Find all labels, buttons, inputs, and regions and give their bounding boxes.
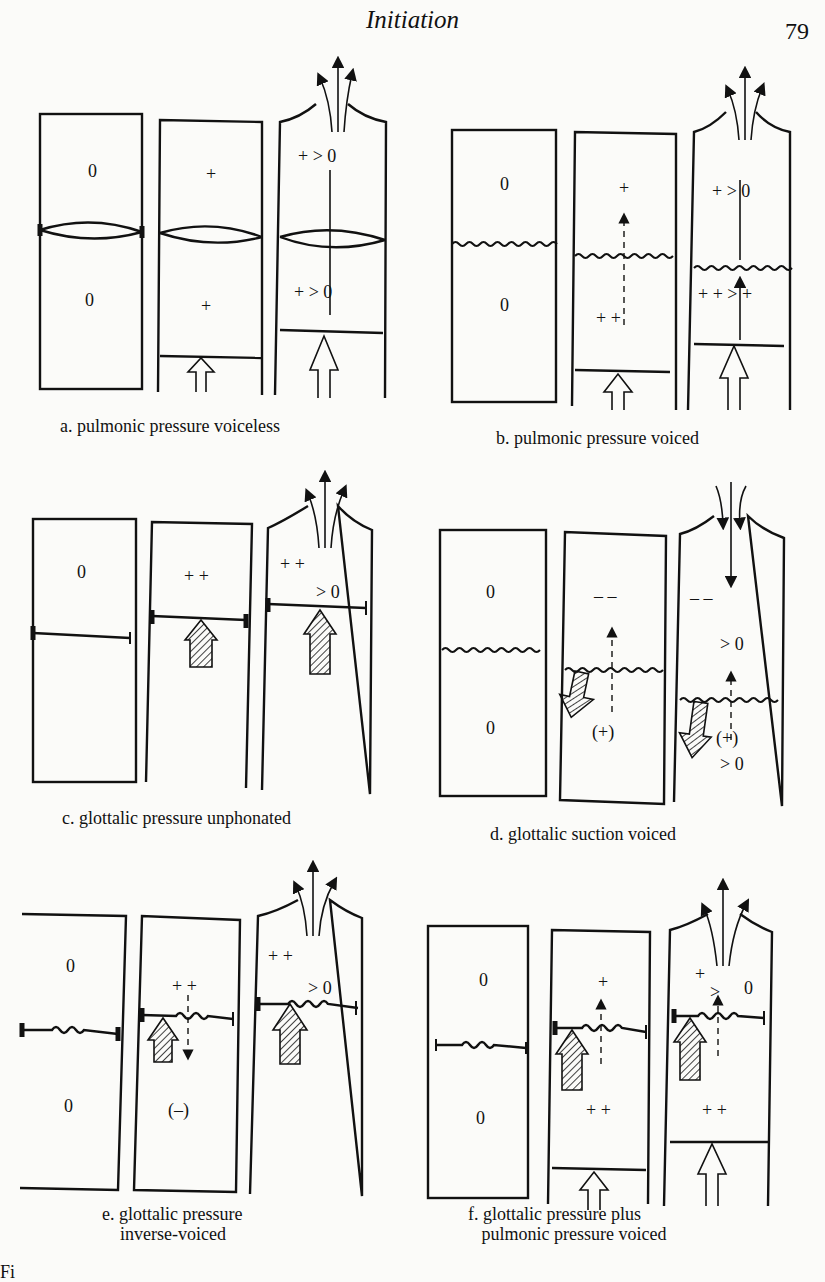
svg-text:+ +: + + bbox=[702, 1100, 727, 1120]
svg-text:(+): (+) bbox=[592, 722, 614, 743]
svg-text:0: 0 bbox=[77, 562, 86, 582]
svg-text:+ +: + + bbox=[172, 976, 197, 996]
svg-text:+: + bbox=[598, 972, 608, 992]
glottalic-arrow-icon bbox=[304, 610, 336, 674]
svg-text:+: + bbox=[695, 964, 705, 984]
panel-f bbox=[428, 884, 772, 1210]
caption-panel-d: d. glottalic suction voiced bbox=[490, 824, 676, 844]
svg-text:+ +: + + bbox=[586, 1100, 611, 1120]
pulmonic-arrow-icon bbox=[188, 358, 214, 392]
svg-text:+: + bbox=[201, 296, 211, 316]
caption-panel-e: e. glottalic pressure inverse-voiced bbox=[102, 1204, 242, 1244]
caption-panel-a: a. pulmonic pressure voiceless bbox=[60, 416, 280, 436]
svg-text:+: + bbox=[206, 164, 216, 184]
svg-text:0: 0 bbox=[486, 582, 495, 602]
panel-c bbox=[33, 476, 372, 794]
svg-text:+ > 0: + > 0 bbox=[298, 146, 336, 166]
glottalic-arrow-icon bbox=[273, 1004, 307, 1064]
svg-text:0: 0 bbox=[479, 970, 488, 990]
svg-text:0: 0 bbox=[476, 1108, 485, 1128]
svg-text:+ +: + + bbox=[596, 308, 621, 328]
figure-label-fragment: Fi bbox=[0, 1262, 15, 1282]
svg-text:(+): (+) bbox=[716, 728, 738, 749]
svg-text:0: 0 bbox=[500, 295, 509, 315]
airflow-out-icon bbox=[704, 884, 746, 966]
svg-text:0: 0 bbox=[744, 978, 753, 998]
pulmonic-arrow-icon bbox=[698, 1144, 726, 1206]
svg-text:– –: – – bbox=[593, 586, 618, 606]
svg-text:>: > bbox=[710, 982, 720, 1002]
pulmonic-arrow-icon bbox=[720, 346, 748, 410]
svg-text:+ > 0: + > 0 bbox=[712, 181, 750, 201]
svg-text:+ +: + + bbox=[184, 566, 209, 586]
airflow-out-icon bbox=[320, 62, 352, 132]
svg-text:0: 0 bbox=[486, 718, 495, 738]
glottalic-arrow-icon bbox=[676, 700, 715, 760]
glottalic-arrow-icon bbox=[556, 1030, 588, 1090]
svg-text:+ > 0: + > 0 bbox=[294, 282, 332, 302]
svg-text:+ +: + + bbox=[268, 946, 293, 966]
svg-text:0: 0 bbox=[85, 290, 94, 310]
airflow-in-icon bbox=[716, 482, 746, 582]
pulmonic-arrow-icon bbox=[604, 374, 632, 410]
airflow-out-icon bbox=[296, 866, 334, 936]
pulmonic-arrow-icon bbox=[310, 336, 338, 398]
svg-text:> 0: > 0 bbox=[720, 634, 744, 654]
svg-text:> 0: > 0 bbox=[308, 978, 332, 998]
panel-e bbox=[20, 866, 362, 1196]
caption-panel-f: f. glottalic pressure plus pulmonic pres… bbox=[468, 1204, 666, 1244]
glottalic-arrow-icon bbox=[148, 1018, 178, 1062]
glottalic-arrow-icon bbox=[674, 1018, 706, 1080]
svg-text:0: 0 bbox=[66, 956, 75, 976]
svg-text:– –: – – bbox=[689, 588, 714, 608]
caption-panel-b: b. pulmonic pressure voiced bbox=[496, 428, 699, 448]
airflow-out-icon bbox=[728, 72, 762, 140]
svg-text:0: 0 bbox=[64, 1096, 73, 1116]
svg-text:+ +: + + bbox=[280, 554, 305, 574]
panel-a bbox=[40, 62, 386, 398]
svg-text:+ + > +: + + > + bbox=[698, 284, 752, 304]
svg-text:0: 0 bbox=[500, 174, 509, 194]
panel-b bbox=[452, 72, 792, 410]
svg-text:0: 0 bbox=[88, 161, 97, 181]
svg-text:+: + bbox=[619, 178, 629, 198]
svg-text:(–): (–) bbox=[168, 1100, 189, 1121]
svg-text:> 0: > 0 bbox=[316, 582, 340, 602]
svg-text:> 0: > 0 bbox=[720, 754, 744, 774]
glottalic-arrow-icon bbox=[185, 620, 217, 667]
caption-panel-c: c. glottalic pressure unphonated bbox=[62, 808, 291, 828]
